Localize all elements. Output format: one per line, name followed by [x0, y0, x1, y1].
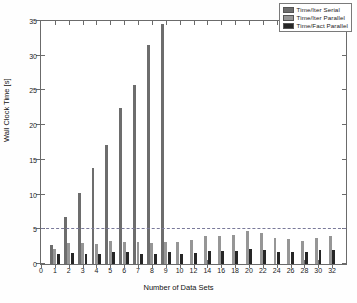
- y-tick-label: 20: [29, 122, 37, 129]
- x-tick-label: 7: [136, 267, 140, 274]
- x-tick-label: 8: [150, 267, 154, 274]
- y-tick-label: 0: [33, 261, 37, 268]
- y-tick-label: 5: [33, 226, 37, 233]
- x-tick-label: 10: [176, 267, 184, 274]
- x-tick-label: 16: [217, 267, 225, 274]
- x-tick-label: 28: [301, 267, 309, 274]
- x-tick-label: 18: [231, 267, 239, 274]
- x-tick-label: 6: [122, 267, 126, 274]
- x-tick-label: 20: [245, 267, 253, 274]
- legend-label: Time/Iter Serial: [297, 6, 340, 13]
- y-tick-label: 30: [29, 52, 37, 59]
- x-tick-label: 0: [39, 267, 43, 274]
- legend-item[interactable]: Time/Iter Parallel: [283, 14, 348, 21]
- x-tick-label: 14: [203, 267, 211, 274]
- x-tick-label: 3: [81, 267, 85, 274]
- x-tick-label: 4: [95, 267, 99, 274]
- legend-swatch-icon: [283, 7, 294, 13]
- legend-item[interactable]: Time/Fact Parallel: [283, 22, 348, 29]
- legend-label: Time/Fact Parallel: [297, 22, 348, 29]
- x-tick-label: 5: [108, 267, 112, 274]
- y-axis-title: Wall Clock Time [s]: [2, 79, 11, 142]
- x-tick-label: 30: [314, 267, 322, 274]
- legend-label: Time/Iter Parallel: [297, 14, 345, 21]
- x-tick-label: 9: [164, 267, 168, 274]
- x-tick-label: 12: [190, 267, 198, 274]
- y-tick-label: 15: [29, 156, 37, 163]
- legend-swatch-icon: [283, 15, 294, 21]
- threshold-line: [41, 228, 346, 229]
- chart-legend[interactable]: Time/Iter SerialTime/Iter ParallelTime/F…: [279, 3, 352, 32]
- x-tick-label: 26: [287, 267, 295, 274]
- legend-swatch-icon: [283, 23, 294, 29]
- plot-area: 05101520253035 0123456789101214161820222…: [40, 20, 347, 265]
- figure-canvas: Wall Clock Time [s] Number of Data Sets …: [0, 0, 357, 303]
- y-tick-label: 10: [29, 191, 37, 198]
- x-axis-title: Number of Data Sets: [0, 283, 357, 292]
- bar: [332, 250, 335, 264]
- x-tick-label: 22: [259, 267, 267, 274]
- x-tick-label: 2: [67, 267, 71, 274]
- x-tick-label: 24: [273, 267, 281, 274]
- y-tick-label: 35: [29, 18, 37, 25]
- legend-item[interactable]: Time/Iter Serial: [283, 6, 348, 13]
- x-tick-label: 32: [328, 267, 336, 274]
- y-tick-label: 25: [29, 87, 37, 94]
- x-tick-label: 1: [53, 267, 57, 274]
